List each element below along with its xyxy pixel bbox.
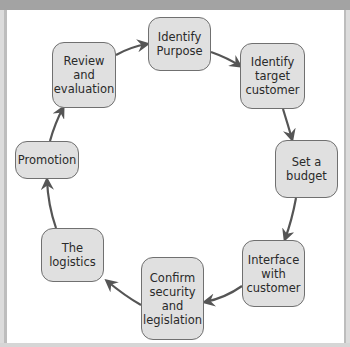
- arrow-purpose-to-target: [211, 52, 240, 66]
- arrow-budget-to-interface: [285, 198, 296, 239]
- node-set-a-budget: Set a budget: [275, 140, 338, 198]
- node-review-evaluation: Review and evaluation: [52, 42, 116, 108]
- node-promotion: Promotion: [15, 141, 79, 179]
- arrow-review-to-purpose: [116, 44, 147, 55]
- arrow-interface-to-confirm: [205, 286, 242, 302]
- node-interface-with-customer: Interface with customer: [242, 240, 305, 307]
- arrow-confirm-to-logistics: [107, 281, 141, 305]
- arrow-target-to-budget: [283, 109, 292, 139]
- node-identify-target-customer: Identify target customer: [240, 43, 305, 109]
- node-confirm-security-legislation: Confirm security and legislation: [141, 257, 204, 340]
- arrow-logistics-to-promotion: [47, 180, 56, 228]
- arrow-promotion-to-review: [50, 108, 63, 141]
- node-the-logistics: The logistics: [41, 228, 104, 282]
- node-identify-purpose: Identify Purpose: [148, 17, 211, 71]
